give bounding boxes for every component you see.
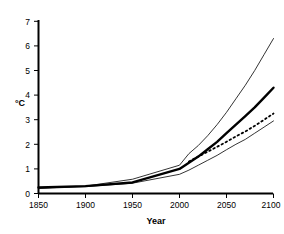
y-tick-label-4: 4 xyxy=(25,90,30,100)
x-tick-label-2000: 2000 xyxy=(170,200,189,210)
series-layer xyxy=(39,39,274,189)
x-tick-label-2100: 2100 xyxy=(262,200,281,210)
y-tick-label-1: 1 xyxy=(25,164,30,174)
series-upper-bound xyxy=(39,39,274,189)
chart-plot-area: 7 6 5 4 3 2 1 0 1850 1900 1950 2000 2050… xyxy=(0,0,284,234)
y-tick-label-0: 0 xyxy=(25,189,30,199)
y-tick-label-2: 2 xyxy=(25,140,30,150)
x-tick-label-1850: 1850 xyxy=(29,200,48,210)
series-alternate-scenario xyxy=(189,114,274,162)
y-tick-label-7: 7 xyxy=(25,17,30,27)
temperature-projection-chart: 7 6 5 4 3 2 1 0 1850 1900 1950 2000 2050… xyxy=(0,0,284,234)
y-axis-ticks xyxy=(34,21,38,193)
x-axis-title: Year xyxy=(146,216,166,226)
y-tick-label-3: 3 xyxy=(25,115,30,125)
y-tick-label-5: 5 xyxy=(25,66,30,76)
x-tick-label-1950: 1950 xyxy=(123,200,142,210)
y-tick-label-6: 6 xyxy=(25,41,30,51)
x-tick-label-1900: 1900 xyxy=(76,200,95,210)
series-lower-bound xyxy=(39,121,274,189)
x-tick-label-2050: 2050 xyxy=(217,200,236,210)
y-axis-title: °C xyxy=(15,98,26,108)
